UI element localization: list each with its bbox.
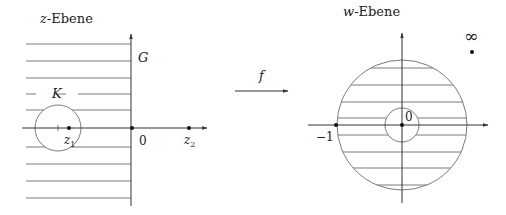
z-plane: z-Ebene G K z1 0 z2 — [22, 11, 207, 206]
half-plane-hatching — [26, 44, 131, 198]
point-z1 — [67, 126, 71, 130]
region-g-label: G — [138, 50, 148, 65]
z1-label: z1 — [63, 133, 75, 149]
infinity-label: ∞ — [464, 26, 478, 46]
w-plane-title: w-Ebene — [343, 4, 400, 19]
disk-k-label: K — [51, 86, 63, 101]
minus-one-label: −1 — [316, 130, 334, 144]
point-infinity — [470, 50, 474, 54]
z2-label: z2 — [183, 133, 195, 149]
mapping-f: f — [235, 68, 288, 91]
point-z2 — [187, 126, 191, 130]
z-origin-label: 0 — [139, 134, 147, 148]
point-origin-w — [400, 123, 404, 127]
conformal-map-diagram: z-Ebene G K z1 0 z2 f — [0, 0, 506, 215]
mapping-label: f — [258, 68, 266, 83]
z-plane-title: z-Ebene — [39, 11, 93, 26]
w-plane: w-Ebene −1 0 ∞ — [308, 4, 488, 203]
w-origin-label: 0 — [405, 110, 413, 124]
point-minus-one — [334, 123, 338, 127]
point-origin-z — [130, 126, 134, 130]
